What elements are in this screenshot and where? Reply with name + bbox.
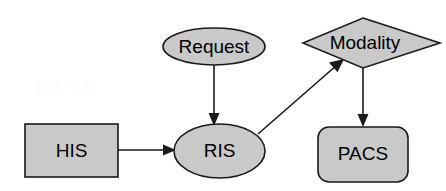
diagram-canvas: ᴇᴏ ѕᴄ HIS Reque xyxy=(0,0,446,191)
node-pacs-label: PACS xyxy=(338,143,388,164)
node-his[interactable]: HIS xyxy=(25,124,118,177)
node-ris[interactable]: RIS xyxy=(174,124,265,178)
node-pacs[interactable]: PACS xyxy=(318,127,408,182)
node-his-label: HIS xyxy=(56,140,88,161)
edge-modality-to-pacs xyxy=(358,67,369,127)
edge-ris-to-modality-line xyxy=(258,65,337,134)
node-request[interactable]: Request xyxy=(163,28,265,65)
node-ris-label: RIS xyxy=(204,140,236,161)
watermark-artifact: ᴇᴏ ѕᴄ xyxy=(36,75,96,97)
node-modality-label: Modality xyxy=(330,32,401,53)
edge-modality-to-pacs-arrowhead xyxy=(358,114,369,127)
edge-ris-to-modality xyxy=(258,59,344,134)
diagram-svg: ᴇᴏ ѕᴄ HIS Reque xyxy=(0,0,446,191)
edge-his-to-ris xyxy=(118,145,176,156)
node-request-label: Request xyxy=(179,36,250,57)
edge-request-to-ris xyxy=(209,65,220,126)
node-modality[interactable]: Modality xyxy=(303,18,440,68)
